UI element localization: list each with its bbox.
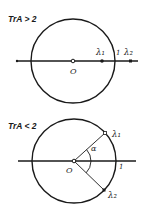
- ray-lambda1: [74, 133, 105, 161]
- origin-label: O: [70, 67, 77, 76]
- lambda1-label: λ₁: [95, 47, 105, 57]
- lambda1-label: λ₁: [111, 129, 121, 139]
- lambda2-point: [129, 60, 132, 63]
- lambda2-label: λ₂: [123, 47, 133, 57]
- lambda2-point: [103, 189, 106, 192]
- lambda2-label: λ₂: [107, 190, 117, 200]
- lambda1-point: [104, 132, 107, 135]
- origin-point: [72, 159, 76, 163]
- axis-left-end: [16, 60, 18, 62]
- origin-point: [71, 59, 75, 63]
- origin-label: O: [66, 166, 73, 175]
- eigenvalue-diagrams: TrA > 2 O λ₁ 1 λ₂ TrA < 2 α O λ₁ λ₂ 1: [0, 0, 149, 215]
- condition-label: TrA < 2: [8, 121, 37, 131]
- diagram-tra-greater-2: TrA > 2 O λ₁ 1 λ₂: [8, 14, 138, 103]
- diagram-tra-less-2: TrA < 2 α O λ₁ λ₂ 1: [8, 119, 136, 203]
- unit-label: 1: [119, 163, 123, 171]
- unit-label: 1: [116, 49, 120, 57]
- angle-label: α: [91, 144, 97, 153]
- condition-label: TrA > 2: [8, 14, 37, 24]
- lambda1-point: [100, 59, 104, 63]
- ray-lambda2: [74, 161, 104, 190]
